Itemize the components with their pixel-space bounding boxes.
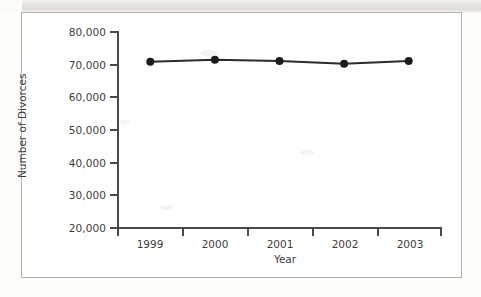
- data-point-2003: [405, 57, 413, 65]
- data-point-2000: [211, 56, 219, 64]
- data-series-layer: [0, 0, 481, 297]
- data-point-2001: [276, 57, 284, 65]
- data-point-1999: [146, 58, 154, 66]
- line-chart: 80,000 70,000 60,000 50,000 40,000 30,00…: [0, 0, 481, 297]
- data-point-2002: [340, 60, 348, 68]
